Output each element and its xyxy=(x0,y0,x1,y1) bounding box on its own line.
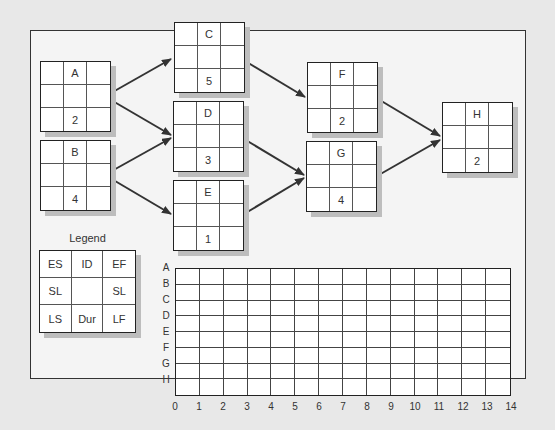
node-g: G4 xyxy=(306,141,377,212)
gantt-cell xyxy=(415,316,439,332)
node-cell xyxy=(220,204,243,227)
node-cell xyxy=(174,181,197,204)
gantt-cell xyxy=(438,379,462,395)
gantt-cell xyxy=(367,285,391,301)
node-duration: 2 xyxy=(466,149,489,172)
gantt-cell xyxy=(343,269,367,285)
node-cell xyxy=(353,165,376,188)
gantt-x-tick: 2 xyxy=(213,401,233,412)
node-b: B4 xyxy=(40,140,111,211)
node-cell xyxy=(353,142,376,165)
node-cell xyxy=(354,109,377,132)
gantt-cell xyxy=(248,348,272,364)
gantt-cell xyxy=(438,332,462,348)
node-cell xyxy=(175,46,198,69)
gantt-cell xyxy=(176,379,200,395)
gantt-cell xyxy=(200,301,224,317)
gantt-cell xyxy=(415,379,439,395)
node-cell xyxy=(41,187,64,210)
gantt-cell xyxy=(343,301,367,317)
gantt-x-tick: 3 xyxy=(237,401,257,412)
gantt-cell xyxy=(343,348,367,364)
node-e: E1 xyxy=(173,180,244,251)
gantt-cell xyxy=(367,348,391,364)
gantt-cell xyxy=(391,285,415,301)
gantt-cell xyxy=(367,332,391,348)
gantt-cell xyxy=(319,379,343,395)
gantt-cell xyxy=(200,348,224,364)
gantt-cell xyxy=(486,285,510,301)
gantt-x-tick: 0 xyxy=(165,401,185,412)
node-cell xyxy=(174,148,197,171)
node-cell xyxy=(174,102,197,125)
legend-title: Legend xyxy=(39,232,136,244)
node-cell xyxy=(41,164,64,187)
arrow-c-f xyxy=(245,61,305,97)
gantt-cell xyxy=(295,301,319,317)
gantt-grid xyxy=(175,268,511,396)
gantt-cell xyxy=(248,316,272,332)
node-d: D3 xyxy=(173,101,244,172)
node-cell xyxy=(41,62,64,85)
gantt-cell xyxy=(391,269,415,285)
arrow-b-d xyxy=(110,138,171,172)
gantt-cell xyxy=(438,316,462,332)
node-h: H2 xyxy=(442,102,513,173)
node-cell xyxy=(443,126,466,149)
node-cell xyxy=(87,141,110,164)
gantt-cell xyxy=(200,316,224,332)
gantt-cell xyxy=(486,301,510,317)
gantt-x-tick: 13 xyxy=(477,401,497,412)
gantt-cell xyxy=(176,269,200,285)
gantt-cell xyxy=(224,379,248,395)
node-cell xyxy=(174,204,197,227)
gantt-cell xyxy=(224,269,248,285)
node-cell xyxy=(307,142,330,165)
node-duration: 3 xyxy=(197,148,220,171)
node-cell xyxy=(197,204,220,227)
node-duration: 4 xyxy=(64,187,87,210)
node-id: C xyxy=(198,23,221,46)
gantt-cell xyxy=(462,348,486,364)
gantt-cell xyxy=(295,269,319,285)
arrow-f-h xyxy=(378,99,440,136)
gantt-cell xyxy=(295,379,319,395)
gantt-cell xyxy=(271,332,295,348)
gantt-row-label: C xyxy=(160,292,172,308)
gantt-cell xyxy=(438,364,462,380)
gantt-x-tick: 10 xyxy=(405,401,425,412)
gantt-cell xyxy=(319,348,343,364)
gantt-cell xyxy=(200,285,224,301)
gantt-cell xyxy=(343,364,367,380)
gantt-row-label: F xyxy=(160,340,172,356)
node-cell xyxy=(174,227,197,250)
gantt-cell xyxy=(200,364,224,380)
node-cell xyxy=(87,62,110,85)
gantt-cell xyxy=(176,332,200,348)
gantt-cell xyxy=(176,301,200,317)
gantt-cell xyxy=(224,332,248,348)
node-cell xyxy=(489,126,512,149)
gantt-cell xyxy=(343,332,367,348)
gantt-cell xyxy=(248,379,272,395)
legend-dur: Dur xyxy=(72,305,104,332)
node-cell xyxy=(443,103,466,126)
node-cell xyxy=(308,63,331,86)
node-cell xyxy=(220,125,243,148)
node-cell xyxy=(220,102,243,125)
gantt-cell xyxy=(415,269,439,285)
gantt-cell xyxy=(271,269,295,285)
gantt-x-tick: 11 xyxy=(429,401,449,412)
node-cell xyxy=(221,46,244,69)
gantt-cell xyxy=(295,332,319,348)
gantt-cell xyxy=(486,332,510,348)
node-cell xyxy=(220,148,243,171)
node-cell xyxy=(220,227,243,250)
node-cell xyxy=(87,85,110,108)
legend-ef: EF xyxy=(103,251,135,278)
gantt-cell xyxy=(248,285,272,301)
gantt-cell xyxy=(391,332,415,348)
gantt-cell xyxy=(343,285,367,301)
gantt-cell xyxy=(391,379,415,395)
legend-sl-left: SL xyxy=(40,278,72,305)
